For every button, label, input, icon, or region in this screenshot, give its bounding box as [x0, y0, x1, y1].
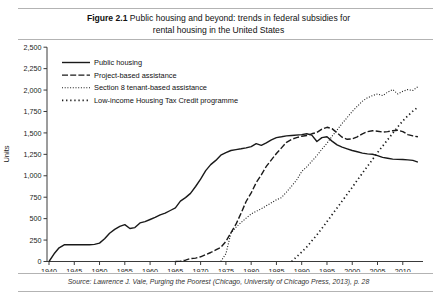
series-line-section-8-tenant-based-assistance — [221, 87, 418, 262]
x-tick-label: 1990 — [294, 267, 310, 272]
y-tick-label: 1,750 — [24, 107, 42, 116]
x-tick-label: 1955 — [117, 267, 133, 272]
series-line-low-income-housing-tax-credit-programme — [292, 107, 418, 261]
x-tick-label: 1975 — [218, 267, 234, 272]
x-tick-label: 2000 — [344, 267, 360, 272]
x-tick-label: 2005 — [370, 267, 386, 272]
title-separator-rule — [18, 39, 433, 40]
x-tick-label: 1980 — [243, 267, 259, 272]
series-line-public-housing — [49, 134, 418, 262]
y-tick-label: 750 — [30, 193, 42, 202]
figure-number-label: Figure 2.1 — [87, 13, 128, 23]
legend-label: Section 8 tenant-based assistance — [94, 83, 207, 92]
series-line-project-based-assistance — [175, 127, 418, 261]
x-tick-label: 1965 — [167, 267, 183, 272]
x-tick-label: 1960 — [142, 267, 158, 272]
y-tick-label: 500 — [30, 214, 42, 223]
y-tick-label: 250 — [30, 236, 42, 245]
figure-title-line1: Figure 2.1 Public housing and beyond: tr… — [87, 13, 350, 23]
top-rule — [18, 8, 433, 9]
legend-label: Project-based assistance — [94, 71, 177, 80]
y-tick-label: 0 — [38, 257, 42, 266]
y-tick-label: 1,250 — [24, 150, 42, 159]
x-tick-label: 1945 — [66, 267, 82, 272]
figure-title: Figure 2.1 Public housing and beyond: tr… — [0, 13, 437, 36]
y-tick-label: 2,000 — [24, 86, 42, 95]
figure-title-line2: rental housing in the United States — [153, 25, 284, 35]
legend-label: Public housing — [94, 58, 142, 67]
y-tick-label: 1,000 — [24, 171, 42, 180]
x-tick-label: 1970 — [193, 267, 209, 272]
legend-label: Low-income Housing Tax Credit programme — [94, 96, 238, 105]
line-chart: 02505007501,0001,2501,5001,7502,0002,250… — [0, 42, 437, 272]
source-separator-rule — [18, 273, 433, 274]
bottom-rule — [18, 291, 433, 292]
y-axis-title: Units — [2, 145, 11, 162]
x-tick-label: 1995 — [319, 267, 335, 272]
x-tick-label: 1940 — [41, 267, 57, 272]
source-citation: Source: Lawrence J. Vale, Purging the Po… — [0, 278, 437, 285]
chart-canvas: 02505007501,0001,2501,5001,7502,0002,250… — [0, 42, 437, 272]
x-tick-label: 2010 — [395, 267, 411, 272]
x-tick-label: 1950 — [92, 267, 108, 272]
x-tick-label: 1985 — [268, 267, 284, 272]
y-tick-label: 2,500 — [24, 43, 42, 52]
y-tick-label: 2,250 — [24, 64, 42, 73]
y-tick-label: 1,500 — [24, 129, 42, 138]
figure-title-line1-text: Public housing and beyond: trends in fed… — [127, 13, 350, 23]
